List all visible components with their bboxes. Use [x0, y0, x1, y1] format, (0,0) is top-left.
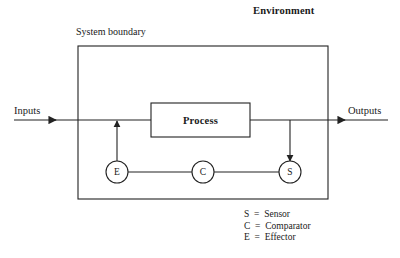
- node-label-effector: E: [106, 161, 128, 183]
- legend: S = Sensor C = Comparator E = Effector: [244, 209, 311, 244]
- inputs-label: Inputs: [14, 105, 40, 116]
- system-boundary-label: System boundary: [76, 27, 146, 38]
- node-label-comparator: C: [192, 161, 214, 183]
- process-label: Process: [151, 103, 250, 137]
- legend-item-comparator: C = Comparator: [244, 221, 311, 233]
- environment-label: Environment: [253, 5, 315, 16]
- node-label-sensor: S: [279, 161, 301, 183]
- legend-item-effector: E = Effector: [244, 232, 311, 244]
- legend-item-sensor: S = Sensor: [244, 209, 311, 221]
- feedback-control-diagram: Environment System boundary Inputs Outpu…: [0, 0, 400, 258]
- outputs-label: Outputs: [348, 105, 381, 116]
